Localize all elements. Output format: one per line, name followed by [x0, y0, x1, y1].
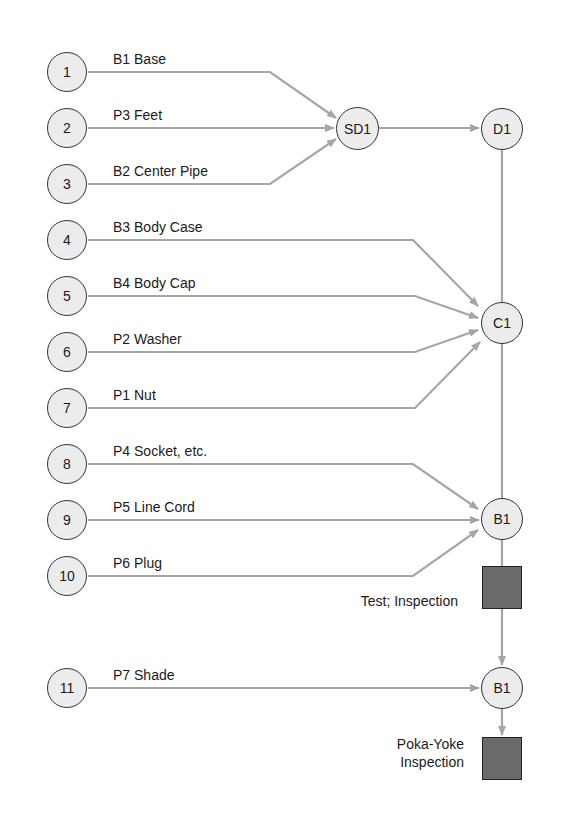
part-label-11: P7 Shade: [113, 667, 175, 683]
part-node-3: 3: [47, 164, 87, 204]
part-label-6: P2 Washer: [113, 331, 182, 347]
part-node-1: 1: [47, 52, 87, 92]
node-label: C1: [493, 315, 511, 331]
part-number: 7: [63, 400, 71, 416]
part-label-3: B2 Center Pipe: [113, 163, 208, 179]
part-number: 2: [63, 120, 71, 136]
node-c1: C1: [481, 302, 523, 344]
part-label-5: B4 Body Cap: [113, 275, 196, 291]
node-label: B1: [493, 511, 510, 527]
node-d1: D1: [481, 108, 523, 150]
pokayoke-inspection-label: Poka-Yoke Inspection: [360, 735, 464, 771]
part-label-9: P5 Line Cord: [113, 499, 195, 515]
part-label-10: P6 Plug: [113, 555, 162, 571]
part-label-2: P3 Feet: [113, 107, 162, 123]
part-number: 9: [63, 512, 71, 528]
part-number: 11: [60, 680, 75, 696]
part-node-2: 2: [47, 108, 87, 148]
part-number: 1: [63, 64, 71, 80]
part-node-6: 6: [47, 332, 87, 372]
part-node-11: 11: [47, 668, 87, 708]
node-label: D1: [493, 121, 511, 137]
part-node-8: 8: [47, 444, 87, 484]
part-number: 3: [63, 176, 71, 192]
part-label-4: B3 Body Case: [113, 219, 203, 235]
pokayoke-line2: Inspection: [360, 753, 464, 771]
node-b1: B1: [481, 498, 523, 540]
pokayoke-inspection-box: [482, 737, 522, 780]
node-label: SD1: [344, 121, 371, 137]
node-b1-final: B1: [481, 667, 523, 709]
test-inspection-box: [482, 566, 522, 609]
part-label-8: P4 Socket, etc.: [113, 443, 207, 459]
part-number: 8: [63, 456, 71, 472]
part-node-9: 9: [47, 500, 87, 540]
part-number: 4: [63, 232, 71, 248]
part-label-1: B1 Base: [113, 51, 166, 67]
node-label: B1: [493, 680, 510, 696]
part-label-7: P1 Nut: [113, 387, 156, 403]
part-number: 5: [63, 288, 71, 304]
pokayoke-line1: Poka-Yoke: [360, 735, 464, 753]
part-node-7: 7: [47, 388, 87, 428]
part-node-10: 10: [47, 556, 87, 596]
part-node-5: 5: [47, 276, 87, 316]
part-node-4: 4: [47, 220, 87, 260]
test-inspection-label: Test; Inspection: [330, 592, 458, 610]
part-number: 10: [59, 568, 75, 584]
assembly-process-diagram: 1 2 3 4 5 6 7 8 9 10 11 B1 Base P3 Feet …: [0, 0, 568, 813]
part-number: 6: [63, 344, 71, 360]
subassembly-node-sd1: SD1: [336, 107, 379, 150]
